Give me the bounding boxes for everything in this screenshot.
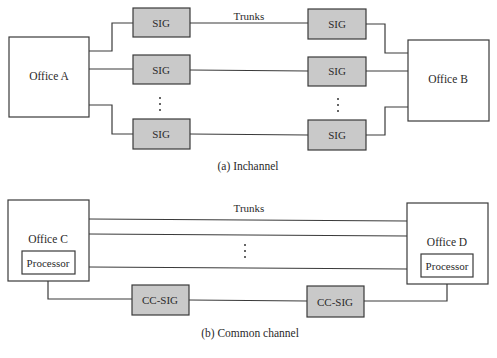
trunk-line-2 <box>89 234 407 236</box>
caption-inchannel: (a) Inchannel <box>218 161 279 173</box>
diagram-canvas <box>0 0 497 358</box>
office-a-to-sig-bottom <box>89 105 133 134</box>
processor-d-label: Processor <box>426 261 469 272</box>
processor-c-label: Processor <box>27 258 70 269</box>
common-channel-connections <box>48 219 447 301</box>
sig-label-right-2: SIG <box>328 66 346 77</box>
sig-bottom-to-office-b <box>366 107 408 135</box>
sig-label-right-1: SIG <box>328 19 346 30</box>
cc-sig-label-left: CC-SIG <box>142 295 178 306</box>
trunk-line-1 <box>89 219 407 221</box>
signaling-link <box>189 300 307 301</box>
office-a-to-sig-top <box>89 23 133 51</box>
sig-label-right-3: SIG <box>328 130 346 141</box>
ellipsis-right-a <box>337 98 339 116</box>
sig-label-left-3: SIG <box>152 129 170 140</box>
ellipsis-left-a <box>159 97 161 115</box>
ellipsis-b <box>244 244 246 262</box>
trunk-line-3 <box>89 267 407 269</box>
office-b-label: Office B <box>428 74 468 86</box>
sig-label-left-1: SIG <box>152 18 170 29</box>
trunks-label-a: Trunks <box>234 11 265 22</box>
office-a-label: Office A <box>29 71 69 83</box>
sig-label-left-2: SIG <box>152 65 170 76</box>
cc-sig-label-right: CC-SIG <box>317 297 353 308</box>
office-c-label: Office C <box>28 234 68 246</box>
office-d-label: Office D <box>427 237 467 249</box>
trunks-label-b: Trunks <box>234 203 265 214</box>
trunk-line-bottom <box>190 134 308 135</box>
sig-top-to-office-b <box>366 24 408 53</box>
trunk-line-middle <box>190 70 308 71</box>
caption-common-channel: (b) Common channel <box>201 328 299 340</box>
